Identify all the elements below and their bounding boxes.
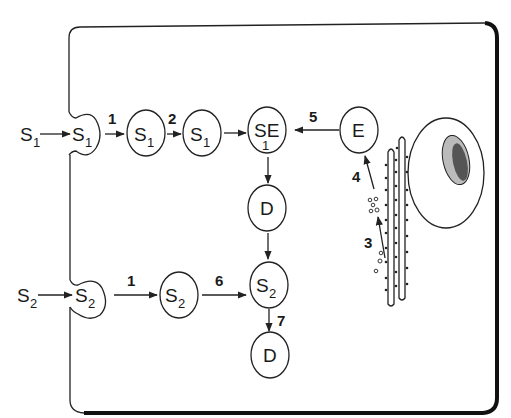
step-label-1-s2: 1 xyxy=(127,272,135,289)
node-s2-b: S 2 xyxy=(250,262,288,308)
svg-text:1: 1 xyxy=(203,135,210,150)
svg-text:2: 2 xyxy=(88,296,95,311)
svg-text:S: S xyxy=(256,275,269,296)
nucleus xyxy=(408,118,484,228)
step-label-7: 7 xyxy=(277,312,285,329)
svg-text:1: 1 xyxy=(33,135,40,150)
step-label-1: 1 xyxy=(108,110,116,127)
step-label-2: 2 xyxy=(168,110,176,127)
svg-text:S: S xyxy=(75,285,88,306)
node-s2-a: S 2 xyxy=(160,272,198,318)
node-s1e-complex: SE 1 xyxy=(248,107,286,153)
s1-receptor-sub: 1 xyxy=(85,135,92,150)
endoplasmic-reticulum xyxy=(385,137,409,306)
svg-text:D: D xyxy=(260,198,274,219)
svg-text:2: 2 xyxy=(269,286,276,301)
node-s2-outside: S 2 xyxy=(17,285,37,311)
svg-text:S: S xyxy=(17,285,30,306)
svg-text:E: E xyxy=(352,120,365,141)
svg-text:2: 2 xyxy=(30,296,37,311)
svg-text:S: S xyxy=(20,124,33,145)
node-s1-a: S 1 xyxy=(127,110,165,156)
arrow-step-4 xyxy=(365,156,374,189)
arrow-step-3 xyxy=(378,217,385,258)
step-label-6: 6 xyxy=(215,272,223,289)
svg-text:1: 1 xyxy=(262,138,269,153)
svg-text:S: S xyxy=(190,124,203,145)
step-label-5: 5 xyxy=(309,108,317,125)
node-d-top: D xyxy=(248,185,286,231)
node-enzyme: E xyxy=(340,107,378,153)
step-label-4: 4 xyxy=(352,168,361,185)
receptor-s1: S 1 xyxy=(69,112,100,155)
receptor-s2: S 2 xyxy=(70,280,106,318)
node-s1-b: S 1 xyxy=(183,110,221,156)
node-d-bottom: D xyxy=(251,332,289,378)
svg-text:S: S xyxy=(134,124,147,145)
svg-text:D: D xyxy=(263,345,277,366)
s1-receptor-label: S xyxy=(72,124,85,145)
cell-pathway-diagram: S 1 S 1 1 S 1 2 S 1 SE 1 E 5 D xyxy=(0,0,511,418)
node-s1-outside: S 1 xyxy=(20,124,40,150)
step-label-3: 3 xyxy=(364,234,372,251)
svg-text:S: S xyxy=(165,285,178,306)
svg-text:2: 2 xyxy=(178,296,185,311)
svg-text:1: 1 xyxy=(147,135,154,150)
